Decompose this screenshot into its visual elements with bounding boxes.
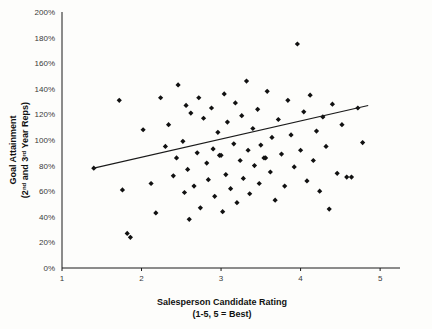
scatter-point: [171, 173, 176, 178]
y-tick-label: 100%: [35, 136, 55, 145]
scatter-point: [339, 122, 344, 127]
scatter-point: [335, 171, 340, 176]
trend-line: [94, 105, 368, 168]
scatter-point: [234, 200, 239, 205]
scatter-point: [185, 167, 190, 172]
scatter-point: [231, 141, 236, 146]
scatter-point: [298, 148, 303, 153]
y-tick-label: 180%: [35, 34, 55, 43]
y-tick-label: 200%: [35, 8, 55, 17]
scatter-point: [250, 126, 255, 131]
x-tick-label: 5: [378, 274, 383, 283]
y-tick-label: 60%: [39, 187, 55, 196]
scatter-point: [191, 183, 196, 188]
scatter-point: [279, 151, 284, 156]
scatter-point: [183, 103, 188, 108]
svg-text:Salesperson Candidate Rating: Salesperson Candidate Rating: [157, 297, 287, 307]
scatter-point: [222, 91, 227, 96]
scatter-point: [273, 198, 278, 203]
scatter-point: [182, 190, 187, 195]
scatter-point: [285, 98, 290, 103]
x-axis-title: Salesperson Candidate Rating (1-5, 5 = B…: [157, 297, 287, 319]
scatter-point: [198, 205, 203, 210]
scatter-point: [288, 132, 293, 137]
scatter-point: [301, 109, 306, 114]
scatter-point: [317, 189, 322, 194]
scatter-point: [120, 187, 125, 192]
x-tick-label: 2: [139, 274, 144, 283]
scatter-point: [166, 122, 171, 127]
scatter-point: [295, 41, 300, 46]
scatter-point: [163, 144, 168, 149]
scatter-point: [311, 158, 316, 163]
scatter-point: [188, 111, 193, 116]
svg-text:Goal Attainment: Goal Attainment: [8, 115, 18, 184]
scatter-point: [349, 175, 354, 180]
scatter-point: [239, 113, 244, 118]
svg-text:(1-5, 5 = Best): (1-5, 5 = Best): [193, 309, 252, 319]
scatter-point: [209, 105, 214, 110]
scatter-point: [223, 172, 228, 177]
x-tick-label: 4: [298, 274, 303, 283]
scatter-point: [148, 181, 153, 186]
scatter-point: [153, 210, 158, 215]
scatter-point: [225, 119, 230, 124]
scatter-point: [204, 160, 209, 165]
scatter-point: [244, 79, 249, 84]
x-tick-label: 3: [219, 274, 224, 283]
scatter-point: [220, 209, 225, 214]
y-tick-label: 160%: [35, 59, 55, 68]
scatter-point: [128, 235, 133, 240]
scatter-point: [196, 95, 201, 100]
scatter-point: [238, 158, 243, 163]
y-tick-label: 20%: [39, 238, 55, 247]
scatter-point: [330, 102, 335, 107]
y-tick-label: 140%: [35, 85, 55, 94]
scatter-point: [174, 155, 179, 160]
scatter-point: [180, 139, 185, 144]
scatter-point: [255, 107, 260, 112]
scatter-point: [141, 127, 146, 132]
scatter-point: [360, 140, 365, 145]
scatter-point: [117, 98, 122, 103]
scatter-point: [233, 100, 238, 105]
scatter-chart-figure: 0%20%40%60%80%100%120%140%160%180%200% 1…: [0, 0, 432, 329]
scatter-point: [308, 93, 313, 98]
scatter-points-group: [91, 41, 365, 239]
scatter-point: [206, 177, 211, 182]
scatter-point: [215, 130, 220, 135]
scatter-point: [211, 146, 216, 151]
y-tick-label: 80%: [39, 162, 55, 171]
scatter-point: [176, 82, 181, 87]
scatter-point: [327, 207, 332, 212]
scatter-point: [158, 95, 163, 100]
scatter-point: [247, 191, 252, 196]
scatter-point: [195, 150, 200, 155]
y-axis-tick-labels: 0%20%40%60%80%100%120%140%160%180%200%: [35, 8, 55, 273]
scatter-point: [257, 181, 262, 186]
y-tick-label: 0%: [43, 264, 55, 273]
scatter-point: [268, 169, 273, 174]
scatter-point: [265, 89, 270, 94]
scatter-point: [125, 231, 130, 236]
y-axis-title: Goal Attainment (2nd and 3rd Year Reps): [8, 102, 30, 198]
scatter-point: [228, 186, 233, 191]
y-tick-label: 40%: [39, 213, 55, 222]
svg-text:(2nd and 3rd Year Reps): (2nd and 3rd Year Reps): [20, 102, 30, 198]
scatter-point: [212, 194, 217, 199]
chart-canvas: 0%20%40%60%80%100%120%140%160%180%200% 1…: [0, 0, 432, 329]
scatter-point: [269, 135, 274, 140]
scatter-point: [276, 117, 281, 122]
x-tick-label: 1: [60, 274, 65, 283]
scatter-point: [304, 178, 309, 183]
y-tick-label: 120%: [35, 110, 55, 119]
scatter-point: [201, 116, 206, 121]
scatter-point: [241, 176, 246, 181]
x-axis-tick-labels: 12345: [60, 274, 383, 283]
scatter-point: [344, 175, 349, 180]
scatter-point: [323, 144, 328, 149]
scatter-point: [245, 148, 250, 153]
scatter-point: [282, 183, 287, 188]
scatter-point: [252, 163, 257, 168]
scatter-point: [187, 217, 192, 222]
